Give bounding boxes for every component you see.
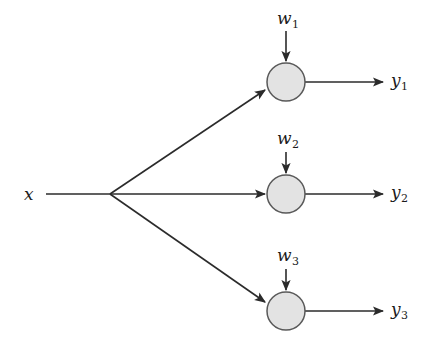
weight-label-2: w2 bbox=[277, 130, 299, 147]
weight-label-1-base: w bbox=[277, 8, 292, 28]
neuron-node-3 bbox=[267, 292, 305, 330]
output-label-1-base: y bbox=[391, 70, 401, 90]
branch-line-to-node-3 bbox=[110, 194, 265, 302]
output-label-3-sub: 3 bbox=[401, 309, 408, 322]
output-label-2: y2 bbox=[391, 184, 408, 201]
diagram-canvas bbox=[0, 0, 428, 354]
output-label-1-sub: 1 bbox=[401, 80, 408, 93]
neuron-node-2 bbox=[267, 175, 305, 213]
output-label-2-sub: 2 bbox=[401, 192, 408, 205]
branch-line-to-node-1 bbox=[110, 90, 265, 194]
neural-network-diagram: x w1 w2 w3 y1 y2 y3 bbox=[0, 0, 428, 354]
input-label: x bbox=[24, 186, 34, 203]
weight-label-3-base: w bbox=[277, 245, 292, 265]
weight-label-2-base: w bbox=[277, 128, 292, 148]
output-label-1: y1 bbox=[391, 72, 408, 89]
input-label-base: x bbox=[24, 184, 34, 204]
output-label-2-base: y bbox=[391, 182, 401, 202]
weight-label-1-sub: 1 bbox=[292, 18, 299, 31]
weight-label-2-sub: 2 bbox=[292, 138, 299, 151]
weight-label-1: w1 bbox=[277, 10, 299, 27]
weight-label-3: w3 bbox=[277, 247, 299, 264]
neuron-node-1 bbox=[267, 63, 305, 101]
output-label-3-base: y bbox=[391, 299, 401, 319]
weight-label-3-sub: 3 bbox=[292, 255, 299, 268]
output-label-3: y3 bbox=[391, 301, 408, 318]
